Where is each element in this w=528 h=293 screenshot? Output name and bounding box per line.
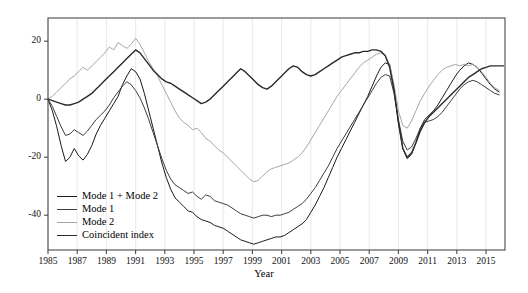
x-tick-label: 2001: [272, 257, 291, 267]
x-tick-label: 2015: [477, 257, 496, 267]
legend-label: Mode 1: [82, 204, 114, 215]
x-tick-label: 2011: [418, 257, 437, 267]
x-tick-label: 2003: [301, 257, 320, 267]
legend-item-2: Mode 2: [57, 216, 158, 229]
chart-plot-area: [0, 0, 528, 293]
series-line-2: [48, 38, 499, 182]
legend-item-0: Mode 1 + Mode 2: [57, 190, 158, 203]
x-tick-label: 2005: [331, 257, 350, 267]
legend-swatch-icon: [57, 209, 77, 210]
x-tick-label: 1987: [68, 257, 87, 267]
x-tick-label: 1999: [243, 257, 262, 267]
legend-label: Coincident index: [82, 230, 154, 241]
x-tick-label: 2013: [447, 257, 466, 267]
legend-swatch-icon: [57, 222, 77, 223]
legend-label: Mode 2: [82, 217, 114, 228]
chart-figure: 1985198719891991199319951997199920012003…: [0, 0, 528, 293]
y-tick-label: 20: [0, 36, 41, 46]
legend-item-3: Coincident index: [57, 229, 158, 242]
legend-item-1: Mode 1: [57, 203, 158, 216]
y-tick-label: 0: [0, 94, 41, 104]
x-tick-label: 1995: [185, 257, 204, 267]
x-tick-label: 2007: [360, 257, 379, 267]
x-axis-title: Year: [254, 268, 273, 279]
x-tick-label: 1989: [97, 257, 116, 267]
series-line-3: [48, 50, 504, 157]
x-tick-label: 1985: [39, 257, 58, 267]
chart-legend: Mode 1 + Mode 2Mode 1Mode 2Coincident in…: [57, 190, 158, 242]
x-tick-label: 1997: [214, 257, 233, 267]
x-tick-label: 1993: [155, 257, 174, 267]
legend-swatch-icon: [57, 196, 77, 197]
y-tick-label: -20: [0, 152, 41, 162]
x-tick-label: 2009: [389, 257, 408, 267]
legend-swatch-icon: [57, 235, 77, 236]
y-tick-label: -40: [0, 210, 41, 220]
legend-label: Mode 1 + Mode 2: [82, 191, 158, 202]
x-tick-label: 1991: [126, 257, 145, 267]
